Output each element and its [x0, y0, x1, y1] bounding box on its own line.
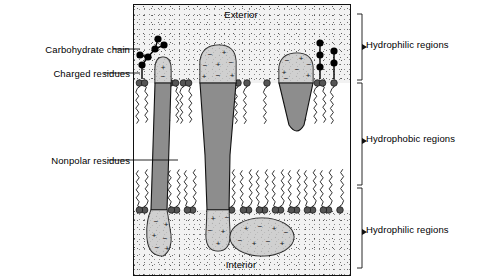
charge-plus: + — [272, 224, 277, 233]
charge-plus: + — [216, 239, 221, 248]
charge-plus: + — [165, 244, 170, 253]
bracket-hydrophobic — [357, 83, 362, 185]
membrane-panel: + − − + + − − + − + — [133, 4, 351, 276]
charge-minus: − — [208, 50, 213, 59]
charge-minus: − — [161, 72, 166, 81]
label-charged-residues: Charged residues — [5, 68, 130, 79]
charge-plus: + — [211, 214, 216, 223]
charge-minus: − — [266, 237, 271, 246]
charge-minus: − — [258, 222, 263, 231]
charge-minus: − — [229, 58, 234, 67]
charge-plus: + — [222, 48, 227, 57]
charge-minus: − — [225, 213, 230, 222]
peripheral-protein-inner: + − + − − + − + — [230, 218, 294, 256]
charge-minus: − — [216, 71, 221, 80]
label-exterior: Exterior — [133, 9, 349, 20]
transmembrane-protein-2: − + − + − + − + + − − + + — [200, 45, 236, 251]
charge-minus: − — [284, 228, 289, 237]
charge-plus: + — [252, 239, 257, 248]
charge-minus: − — [307, 60, 312, 69]
label-interior: Interior — [133, 259, 349, 270]
label-hydrophilic-regions-top: Hydrophilic regions — [366, 39, 449, 50]
charge-plus: + — [244, 224, 249, 233]
label-hydrophilic-regions-bottom: Hydrophilic regions — [366, 224, 449, 235]
charge-minus: − — [238, 236, 243, 245]
charge-minus: − — [155, 243, 160, 252]
charge-plus: + — [306, 71, 311, 80]
carbohydrate-chain-right — [317, 40, 337, 79]
bracket-hydrophilic-bottom — [357, 188, 362, 268]
peripheral-protein-outer: − + − + − + − — [279, 53, 313, 131]
charge-minus: − — [203, 61, 208, 70]
charge-plus: + — [152, 231, 157, 240]
charge-plus: + — [164, 220, 169, 229]
charge-minus: − — [154, 217, 159, 226]
charge-minus: − — [163, 234, 168, 243]
membrane-artwork: + − − + + − − + − + — [134, 5, 350, 275]
charge-minus: − — [284, 74, 289, 83]
charge-plus: + — [221, 227, 226, 236]
bracket-hydrophilic-top — [357, 14, 362, 80]
charge-plus: + — [161, 63, 166, 72]
label-carbohydrate-chain: Carbohydrate chain — [10, 44, 130, 55]
charge-plus: + — [299, 54, 304, 63]
charge-plus: + — [230, 71, 235, 80]
membrane-diagram-figure: + − − + + − − + − + — [0, 0, 488, 278]
charge-minus: − — [208, 226, 213, 235]
charge-minus: − — [295, 65, 300, 74]
charge-minus: − — [285, 56, 290, 65]
label-nonpolar-residues: Nonpolar residues — [10, 155, 130, 166]
charge-plus: + — [216, 60, 221, 69]
charge-plus: + — [280, 239, 285, 248]
label-hydrophobic-regions: Hydrophobic regions — [366, 133, 455, 144]
charge-plus: + — [202, 72, 207, 81]
transmembrane-protein-1: + − − + + − − + — [147, 57, 171, 256]
